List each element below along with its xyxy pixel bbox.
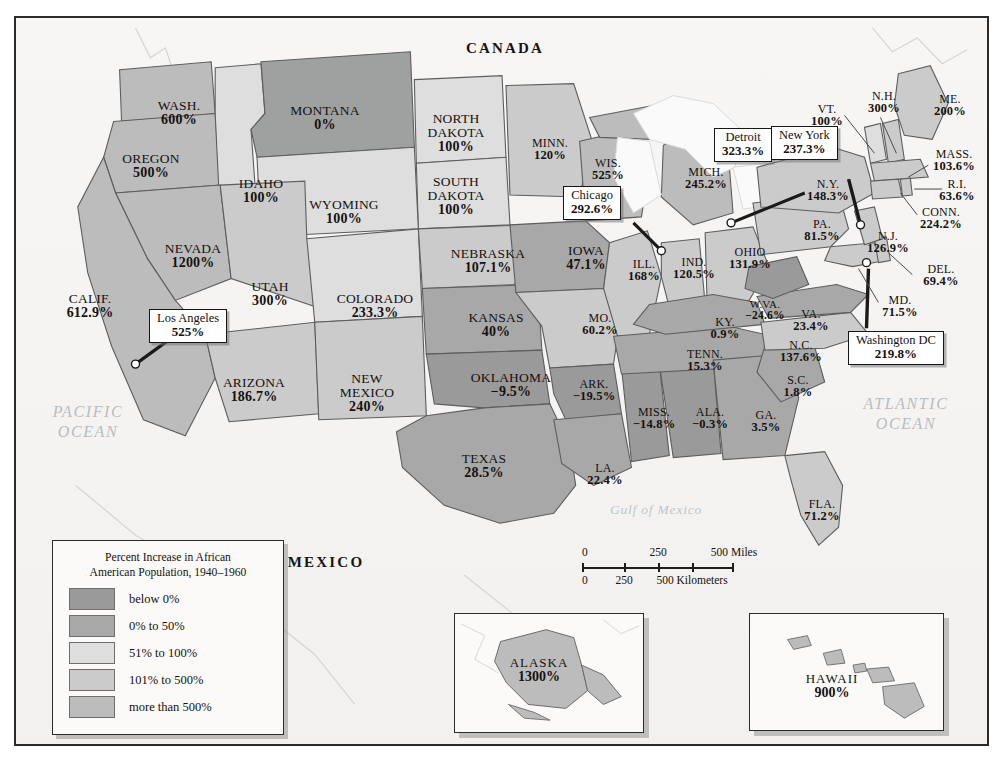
pacific-line-2: OCEAN — [58, 423, 118, 440]
state-value: 100% — [239, 191, 284, 205]
state-value: 60.2% — [582, 324, 617, 337]
legend-rows: below 0%0% to 50%51% to 100%101% to 500%… — [63, 588, 273, 718]
state-label: CALIF.612.9% — [67, 292, 114, 320]
state-name: NEW — [340, 372, 394, 386]
state-name: TEXAS — [462, 452, 507, 466]
state-label: IDAHO100% — [239, 177, 284, 205]
state-value: 0.9% — [711, 328, 740, 341]
scale-km-tick-0: 0 — [582, 574, 588, 586]
state-label: TEXAS28.5% — [462, 452, 507, 480]
scale-mile-tick-0: 0 — [582, 546, 588, 558]
inset-hawaii: HAWAII 900% — [749, 613, 944, 731]
legend-item: 51% to 100% — [69, 642, 273, 664]
legend-title-line-1: Percent Increase in African — [105, 551, 231, 564]
state-name: OKLAHOMA — [471, 371, 551, 385]
state-label: ME.200% — [934, 93, 966, 118]
state-label: NEBRASKA107.1% — [451, 247, 525, 275]
scale-km-tick-1: 250 — [615, 574, 632, 586]
state-value: 168% — [628, 270, 660, 283]
callout-los-angeles[interactable]: Los Angeles 525% — [149, 309, 227, 343]
state-label: MD.71.5% — [882, 294, 917, 319]
callout-washington-dc[interactable]: Washington DC 219.8% — [848, 331, 944, 365]
state-label: NEVADA1200% — [165, 242, 221, 270]
state-value: 300% — [868, 102, 900, 115]
state-label: MICH.245.2% — [685, 166, 727, 191]
state-value: 148.3% — [807, 190, 849, 203]
state-label: NORTHDAKOTA100% — [427, 112, 484, 154]
callout-chicago[interactable]: Chicago 292.6% — [563, 186, 621, 220]
state-value: 100% — [309, 212, 379, 226]
state-value: 600% — [158, 113, 201, 127]
state-value: 100% — [427, 140, 484, 154]
legend-item: more than 500% — [69, 696, 273, 718]
hawaii-name: HAWAII — [806, 672, 859, 686]
state-label: MONTANA0% — [290, 104, 359, 132]
state-label: KANSAS40% — [468, 311, 523, 339]
state-label: S.C.1.8% — [784, 374, 813, 399]
state-label: WIS.525% — [592, 157, 624, 182]
state-value: 240% — [340, 400, 394, 414]
state-name: KANSAS — [468, 311, 523, 325]
legend-label: more than 500% — [129, 700, 212, 715]
state-label: ILL.168% — [628, 258, 660, 283]
state-label: NEWMEXICO240% — [340, 372, 394, 414]
state-name: NORTH — [427, 112, 484, 126]
scale-mile-tick-1: 250 — [649, 546, 666, 558]
state-value: −9.5% — [471, 385, 551, 399]
state-label: N.H.300% — [868, 90, 900, 115]
legend-swatch — [69, 615, 115, 637]
state-name: MEXICO — [340, 386, 394, 400]
state-value: −14.8% — [633, 418, 676, 431]
state-label: OKLAHOMA−9.5% — [471, 371, 551, 399]
map-figure: CANADA MEXICO PACIFIC OCEAN ATLANTIC OCE… — [0, 0, 1007, 762]
state-value: 40% — [468, 325, 523, 339]
callout-value: 323.3% — [722, 144, 764, 158]
state-name: DAKOTA — [427, 189, 484, 203]
state-value: 71.5% — [882, 306, 917, 319]
state-name: WYOMING — [309, 198, 379, 212]
state-value: 103.6% — [933, 160, 975, 173]
state-value: 1200% — [165, 256, 221, 270]
state-label: DEL.69.4% — [923, 263, 958, 288]
state-value: 233.3% — [337, 306, 414, 320]
ocean-label-atlantic: ATLANTIC OCEAN — [863, 394, 948, 434]
state-name: COLORADO — [337, 292, 414, 306]
state-value: 69.4% — [923, 275, 958, 288]
state-value: 186.7% — [223, 390, 285, 404]
callout-value: 219.8% — [856, 347, 936, 361]
map-frame: CANADA MEXICO PACIFIC OCEAN ATLANTIC OCE… — [14, 16, 989, 746]
state-value: 100% — [427, 203, 484, 217]
state-name: IDAHO — [239, 177, 284, 191]
state-value: 107.1% — [451, 261, 525, 275]
state-value: 71.2% — [804, 510, 839, 523]
state-label: WYOMING100% — [309, 198, 379, 226]
alaska-label: ALASKA 1300% — [510, 656, 569, 684]
state-name: CALIF. — [67, 292, 114, 306]
state-label: COLORADO233.3% — [337, 292, 414, 320]
legend-swatch — [69, 642, 115, 664]
state-label: OHIO131.9% — [729, 246, 771, 271]
state-label: IOWA47.1% — [566, 244, 606, 272]
callout-new-york[interactable]: New York 237.3% — [771, 126, 838, 160]
legend-item: 0% to 50% — [69, 615, 273, 637]
state-label: KY.0.9% — [711, 316, 740, 341]
state-label: W.VA.−24.6% — [745, 299, 784, 322]
callout-detroit[interactable]: Detroit 323.3% — [714, 128, 772, 162]
state-label: ALA.−0.3% — [692, 406, 728, 431]
legend-label: 0% to 50% — [129, 619, 185, 634]
state-value: 23.4% — [793, 320, 828, 333]
state-value: 1.8% — [784, 386, 813, 399]
state-value: 137.6% — [780, 351, 822, 364]
legend-item: below 0% — [69, 588, 273, 610]
state-label: MASS.103.6% — [933, 148, 975, 173]
state-name: ARIZONA — [223, 376, 285, 390]
callout-value: 237.3% — [779, 142, 830, 156]
alaska-value: 1300% — [510, 669, 569, 684]
scale-km-ticks: 0 250 500 Kilometers — [582, 574, 792, 589]
state-value: 0% — [290, 118, 359, 132]
state-value: 81.5% — [804, 230, 839, 243]
scale-bar: 0 250 500 Miles 0 250 500 Kilometers — [582, 546, 792, 589]
scale-km-tick-2: 500 Kilometers — [656, 574, 727, 586]
legend-label: below 0% — [129, 592, 179, 607]
state-value: 47.1% — [566, 258, 606, 272]
